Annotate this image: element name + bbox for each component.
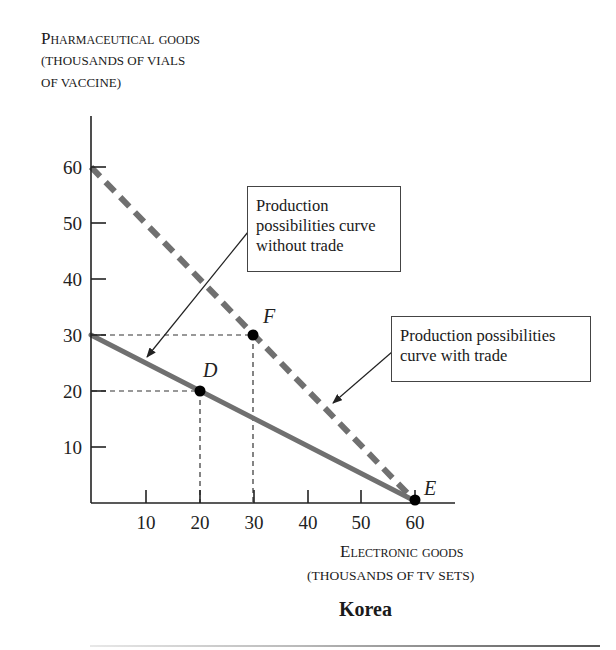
point-f-marker <box>248 330 259 341</box>
x-tick-30: 30 <box>245 512 264 533</box>
x-tick-60: 60 <box>406 512 425 533</box>
annotation-text-line: without trade <box>256 236 392 256</box>
point-d-marker <box>195 386 206 397</box>
chart-subtitle: Korea <box>339 598 392 621</box>
x-tick-40: 40 <box>299 512 318 533</box>
arrow-without-trade <box>147 232 248 357</box>
y-tick-10: 10 <box>63 437 82 458</box>
x-tick-labels: 10 20 30 40 50 60 <box>137 512 425 533</box>
point-e-label: E <box>423 477 436 499</box>
y-tick-60: 60 <box>63 157 82 178</box>
y-tick-50: 50 <box>63 213 82 234</box>
x-axis-title-line2: (THOUSANDS OF TV SETS) <box>307 564 616 588</box>
x-axis-title-line1: Electronic goods <box>315 540 616 564</box>
x-axis-title: Electronic goods (THOUSANDS OF TV SETS) <box>315 540 616 588</box>
arrow-with-trade <box>333 352 392 403</box>
y-tick-40: 40 <box>63 269 82 290</box>
guide-lines <box>92 335 253 503</box>
bottom-rule-divider <box>90 645 600 647</box>
y-tick-labels: 60 50 40 30 20 10 <box>63 157 82 458</box>
y-tick-30: 30 <box>63 325 82 346</box>
x-tick-10: 10 <box>137 512 156 533</box>
annotation-box-without-trade: Production possibilities curve without t… <box>247 186 401 272</box>
x-tick-50: 50 <box>352 512 371 533</box>
annotation-text-line: Production <box>256 196 392 216</box>
point-e-marker <box>410 495 421 506</box>
y-tick-20: 20 <box>63 381 82 402</box>
point-f-label: F <box>262 305 276 327</box>
point-d-label: D <box>202 359 218 381</box>
annotation-box-with-trade: Production possibilities curve with trad… <box>391 316 591 382</box>
annotation-text-line: possibilities curve <box>256 216 392 236</box>
x-tick-20: 20 <box>191 512 210 533</box>
annotation-text-line: curve with trade <box>400 346 582 366</box>
ppc-without-trade-line <box>91 335 415 501</box>
annotation-text-line: Production possibilities <box>400 326 582 346</box>
